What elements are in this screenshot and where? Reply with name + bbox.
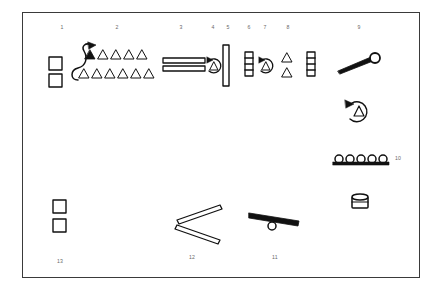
callout-label-4: 4 xyxy=(211,25,214,30)
callout-label-10: 10 xyxy=(395,156,401,161)
diagram-frame-border xyxy=(22,12,420,278)
callout-label-6: 6 xyxy=(247,25,250,30)
callout-label-9: 9 xyxy=(357,25,360,30)
callout-label-2: 2 xyxy=(115,25,118,30)
callout-label-3: 3 xyxy=(179,25,182,30)
callout-label-5: 5 xyxy=(226,25,229,30)
callout-label-1: 1 xyxy=(60,25,63,30)
diagram-root: 1 2 3 4 5 6 7 8 9 10 11 12 13 xyxy=(0,0,442,291)
callout-label-12: 12 xyxy=(189,255,195,260)
callout-label-11: 11 xyxy=(272,255,278,260)
callout-label-13: 13 xyxy=(57,259,63,264)
callout-label-7: 7 xyxy=(263,25,266,30)
callout-label-8: 8 xyxy=(286,25,289,30)
